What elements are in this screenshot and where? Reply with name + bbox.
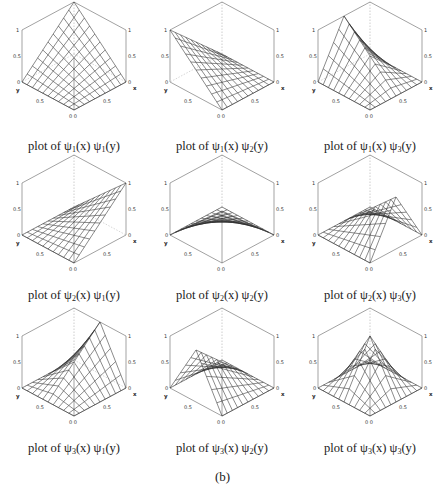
- surface-plot-svg: 10.5010.500.50.50 0yx: [148, 153, 296, 288]
- plot-caption: plot of ψ1(x) ψ3(y): [296, 139, 444, 154]
- svg-text:0.5: 0.5: [184, 98, 192, 104]
- svg-text:1: 1: [128, 27, 131, 33]
- svg-text:0: 0: [424, 385, 427, 391]
- svg-text:y: y: [16, 240, 20, 247]
- svg-text:0: 0: [17, 385, 20, 391]
- svg-text:1: 1: [164, 333, 167, 339]
- figure-label: (b): [0, 469, 445, 485]
- svg-text:0.5: 0.5: [251, 98, 259, 104]
- svg-text:0: 0: [128, 79, 131, 85]
- surface-plot-svg: 10.5010.500.50.50 0yx: [296, 153, 444, 288]
- surface-plot-svg: 10.5010.500.50.50 0yx: [0, 153, 148, 288]
- svg-text:0.5: 0.5: [161, 359, 169, 365]
- surface-plot-panel: 10.5010.500.50.50 0yxplot of ψ2(x) ψ1(y): [0, 153, 148, 308]
- plot-caption: plot of ψ3(x) ψ1(y): [0, 441, 148, 456]
- svg-text:0: 0: [17, 232, 20, 238]
- svg-text:0.5: 0.5: [399, 404, 407, 410]
- svg-text:1: 1: [276, 333, 279, 339]
- surface-plot-panel: 10.5010.500.50.50 0yxplot of ψ2(x) ψ3(y): [296, 153, 444, 308]
- surface-plot-svg: 10.5010.500.50.50 0yx: [148, 0, 296, 135]
- svg-text:y: y: [16, 87, 20, 94]
- svg-text:0.5: 0.5: [13, 359, 21, 365]
- svg-text:y: y: [164, 393, 168, 400]
- svg-text:0.5: 0.5: [103, 404, 111, 410]
- svg-text:0.5: 0.5: [276, 359, 284, 365]
- svg-text:y: y: [164, 87, 168, 94]
- svg-text:1: 1: [16, 180, 19, 186]
- svg-text:0: 0: [424, 232, 427, 238]
- svg-text:0: 0: [276, 385, 279, 391]
- svg-text:0 0: 0 0: [365, 419, 373, 425]
- plot-caption: plot of ψ1(x) ψ2(y): [148, 139, 296, 154]
- svg-text:0: 0: [313, 385, 316, 391]
- svg-text:0.5: 0.5: [424, 53, 432, 59]
- svg-text:0: 0: [313, 232, 316, 238]
- svg-text:0.5: 0.5: [332, 251, 340, 257]
- svg-text:0: 0: [165, 385, 168, 391]
- svg-text:y: y: [312, 240, 316, 247]
- svg-text:0.5: 0.5: [184, 251, 192, 257]
- surface-plot-svg: 10.5010.500.50.50 0yx: [0, 0, 148, 135]
- svg-text:0 0: 0 0: [365, 266, 373, 272]
- surface-plot-svg: 10.5010.500.50.50 0yx: [296, 0, 444, 135]
- svg-text:0.5: 0.5: [36, 251, 44, 257]
- svg-text:0.5: 0.5: [399, 251, 407, 257]
- svg-text:0.5: 0.5: [103, 251, 111, 257]
- svg-text:0: 0: [424, 79, 427, 85]
- svg-text:y: y: [312, 87, 316, 94]
- svg-text:0.5: 0.5: [424, 206, 432, 212]
- svg-text:0 0: 0 0: [365, 113, 373, 119]
- svg-text:0.5: 0.5: [276, 206, 284, 212]
- svg-text:0.5: 0.5: [424, 359, 432, 365]
- plot-caption: plot of ψ3(x) ψ3(y): [296, 441, 444, 456]
- svg-text:0.5: 0.5: [309, 206, 317, 212]
- svg-text:0.5: 0.5: [309, 359, 317, 365]
- svg-text:0: 0: [165, 79, 168, 85]
- svg-text:1: 1: [128, 333, 131, 339]
- svg-text:0.5: 0.5: [161, 206, 169, 212]
- svg-text:1: 1: [164, 180, 167, 186]
- svg-text:x: x: [133, 85, 137, 91]
- svg-text:y: y: [16, 393, 20, 400]
- surface-plot-panel: 10.5010.500.50.50 0yxplot of ψ2(x) ψ2(y): [148, 153, 296, 308]
- svg-text:0.5: 0.5: [36, 404, 44, 410]
- svg-text:0: 0: [165, 232, 168, 238]
- svg-text:0.5: 0.5: [332, 404, 340, 410]
- svg-text:1: 1: [312, 333, 315, 339]
- svg-text:1: 1: [128, 180, 131, 186]
- svg-text:x: x: [281, 238, 285, 244]
- svg-text:y: y: [312, 393, 316, 400]
- svg-text:0 0: 0 0: [217, 419, 225, 425]
- svg-text:0.5: 0.5: [332, 98, 340, 104]
- svg-text:1: 1: [424, 180, 427, 186]
- plot-caption: plot of ψ2(x) ψ2(y): [148, 288, 296, 303]
- svg-text:0.5: 0.5: [276, 53, 284, 59]
- svg-text:0 0: 0 0: [217, 113, 225, 119]
- svg-text:0.5: 0.5: [13, 53, 21, 59]
- svg-text:0.5: 0.5: [251, 404, 259, 410]
- svg-text:0: 0: [276, 79, 279, 85]
- svg-text:0: 0: [276, 232, 279, 238]
- plot-caption: plot of ψ1(x) ψ1(y): [0, 139, 148, 154]
- svg-text:0 0: 0 0: [69, 113, 77, 119]
- svg-text:0.5: 0.5: [128, 206, 136, 212]
- surface-plot-svg: 10.5010.500.50.50 0yx: [296, 306, 444, 441]
- svg-text:x: x: [281, 391, 285, 397]
- surface-plot-panel: 10.5010.500.50.50 0yxplot of ψ3(x) ψ2(y): [148, 306, 296, 461]
- svg-text:0: 0: [128, 232, 131, 238]
- svg-text:1: 1: [276, 180, 279, 186]
- svg-text:x: x: [429, 85, 433, 91]
- svg-text:x: x: [281, 85, 285, 91]
- svg-text:x: x: [429, 391, 433, 397]
- svg-text:0.5: 0.5: [309, 53, 317, 59]
- svg-text:0: 0: [313, 79, 316, 85]
- surface-plot-panel: 10.5010.500.50.50 0yxplot of ψ3(x) ψ1(y): [0, 306, 148, 461]
- svg-text:0.5: 0.5: [13, 206, 21, 212]
- surface-plot-panel: 10.5010.500.50.50 0yxplot of ψ1(x) ψ1(y): [0, 0, 148, 155]
- svg-text:x: x: [133, 238, 137, 244]
- surface-plot-panel: 10.5010.500.50.50 0yxplot of ψ1(x) ψ2(y): [148, 0, 296, 155]
- svg-text:0 0: 0 0: [69, 419, 77, 425]
- svg-text:1: 1: [424, 27, 427, 33]
- svg-text:1: 1: [16, 333, 19, 339]
- svg-text:1: 1: [312, 27, 315, 33]
